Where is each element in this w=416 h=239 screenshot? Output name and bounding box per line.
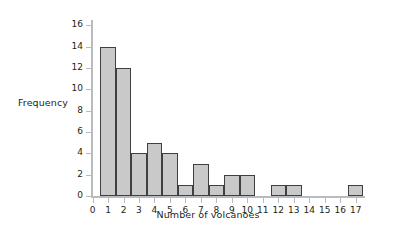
plot-area: 0246810121416 01234567891011121314151617 — [91, 20, 365, 196]
bar-13 — [286, 185, 301, 196]
x-tick-mark-2 — [124, 198, 125, 203]
bar-5 — [162, 153, 177, 196]
y-tick-mark — [86, 196, 91, 197]
y-tick-mark — [86, 25, 91, 26]
bar-17 — [348, 185, 363, 196]
bar-8 — [209, 185, 224, 196]
y-tick-label: 14 — [72, 41, 83, 52]
x-tick-mark-3 — [139, 198, 140, 203]
y-tick-label: 0 — [77, 190, 83, 201]
x-tick-mark-6 — [185, 198, 186, 203]
y-tick-mark — [86, 47, 91, 48]
x-tick-mark-13 — [294, 198, 295, 203]
y-axis-label: Frequency — [18, 97, 68, 108]
y-tick-label: 6 — [77, 126, 83, 137]
bar-12 — [271, 185, 286, 196]
x-tick-mark-1 — [108, 198, 109, 203]
x-tick-mark-9 — [232, 198, 233, 203]
x-tick-mark-17 — [356, 198, 357, 203]
bar-7 — [193, 164, 208, 196]
x-tick-mark-4 — [154, 198, 155, 203]
y-tick-mark — [86, 175, 91, 176]
bar-4 — [147, 143, 162, 196]
x-tick-mark-7 — [201, 198, 202, 203]
x-tick-mark-8 — [216, 198, 217, 203]
x-axis-label: Number of volcanoes — [0, 209, 416, 220]
bar-6 — [178, 185, 193, 196]
x-tick-mark-15 — [325, 198, 326, 203]
y-tick-mark — [86, 89, 91, 90]
y-tick-label: 10 — [72, 83, 83, 94]
y-tick-mark — [86, 153, 91, 154]
y-tick-mark — [86, 111, 91, 112]
bar-2 — [116, 68, 131, 196]
histogram-chart: Frequency 0246810121416 0123456789101112… — [0, 0, 416, 239]
y-tick-label: 12 — [72, 62, 83, 73]
x-tick-mark-12 — [278, 198, 279, 203]
x-tick-mark-0 — [93, 198, 94, 203]
y-tick-label: 8 — [77, 105, 83, 116]
x-tick-mark-10 — [247, 198, 248, 203]
x-tick-mark-5 — [170, 198, 171, 203]
bar-10 — [240, 175, 255, 196]
y-tick-mark — [86, 132, 91, 133]
y-tick-mark — [86, 68, 91, 69]
x-tick-mark-16 — [340, 198, 341, 203]
y-tick-label: 16 — [72, 19, 83, 30]
x-tick-mark-11 — [263, 198, 264, 203]
bar-9 — [224, 175, 239, 196]
y-tick-label: 2 — [77, 169, 83, 180]
bar-3 — [131, 153, 146, 196]
y-axis-line — [91, 20, 93, 197]
y-tick-label: 4 — [77, 147, 83, 158]
bar-1 — [100, 47, 115, 196]
x-tick-mark-14 — [309, 198, 310, 203]
